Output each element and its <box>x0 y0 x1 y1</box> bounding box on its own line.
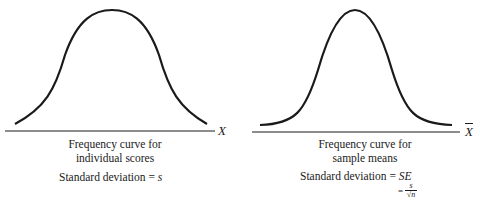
left-bell-curve <box>15 10 207 124</box>
right-axis-label-xbar: X <box>465 124 473 140</box>
right-bell-curve <box>260 10 452 125</box>
fraction-denominator: √n <box>405 191 417 199</box>
left-caption-line2: individual scores <box>40 151 190 165</box>
right-caption-line1: Frequency curve for <box>290 137 440 151</box>
left-sd-formula: Standard deviation = s <box>59 170 162 184</box>
left-caption-line1: Frequency curve for <box>40 137 190 151</box>
left-sd-text: Standard deviation = <box>59 171 158 183</box>
right-sd-fraction: s √n <box>405 182 417 199</box>
right-sd-text: Standard deviation = <box>300 170 399 182</box>
left-axis-label: X <box>218 123 226 139</box>
right-caption: Frequency curve for sample means <box>290 137 440 165</box>
left-sd-symbol: s <box>158 171 162 183</box>
right-sd-formula: Standard deviation = SE <box>300 169 412 183</box>
right-sd-eq2-prefix: = <box>398 184 403 198</box>
left-caption: Frequency curve for individual scores <box>40 137 190 165</box>
right-caption-line2: sample means <box>290 151 440 165</box>
